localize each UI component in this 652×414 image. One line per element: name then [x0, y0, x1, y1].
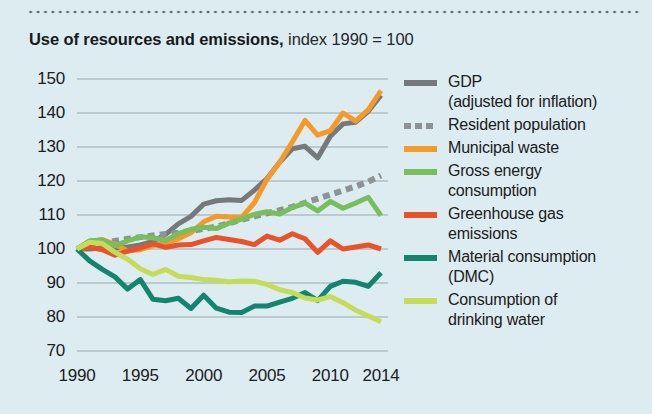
legend-item-resident-population[interactable]: Resident population	[404, 115, 648, 135]
y-tick-label: 90	[19, 273, 65, 293]
x-tick-label: 2014	[356, 366, 406, 386]
y-tick-label: 120	[19, 171, 65, 191]
legend-label-municipal-waste: Municipal waste	[448, 138, 559, 158]
y-tick-label: 80	[19, 307, 65, 327]
legend-swatch-consumption-of-drinking-water-icon	[404, 298, 437, 304]
legend-label-gdp: GDP(adjusted for inflation)	[448, 72, 597, 112]
legend-swatch-resident-population-icon	[404, 123, 437, 129]
y-tick-label: 110	[19, 205, 65, 225]
legend-item-gdp[interactable]: GDP(adjusted for inflation)	[404, 72, 648, 112]
x-tick-label: 1990	[52, 366, 102, 386]
legend-label-gross-energy-consumption: Gross energyconsumption	[448, 161, 542, 201]
x-tick-label: 2005	[242, 366, 292, 386]
legend-swatch-material-consumption-dmc-icon	[404, 255, 437, 261]
legend-swatch-gross-energy-consumption-icon	[404, 169, 437, 175]
figure-panel: Use of resources and emissions, index 19…	[0, 0, 652, 414]
y-tick-label: 130	[19, 137, 65, 157]
series-line-municipal-waste	[77, 91, 381, 251]
y-tick-label: 100	[19, 239, 65, 259]
legend-swatch-greenhouse-gas-emissions-icon	[404, 212, 437, 218]
legend-item-municipal-waste[interactable]: Municipal waste	[404, 138, 648, 158]
legend-label-material-consumption-dmc: Material consumption(DMC)	[448, 247, 596, 287]
legend-label-consumption-of-drinking-water: Consumption ofdrinking water	[448, 290, 557, 330]
x-tick-label: 1995	[115, 366, 165, 386]
x-tick-label: 2010	[305, 366, 355, 386]
legend-swatch-municipal-waste-icon	[404, 146, 437, 152]
series-line-gdp	[77, 95, 381, 249]
legend-item-greenhouse-gas-emissions[interactable]: Greenhouse gasemissions	[404, 204, 648, 244]
series-lines-group	[77, 91, 381, 322]
legend-label-resident-population: Resident population	[448, 115, 586, 135]
legend-item-gross-energy-consumption[interactable]: Gross energyconsumption	[404, 161, 648, 201]
legend-item-consumption-of-drinking-water[interactable]: Consumption ofdrinking water	[404, 290, 648, 330]
x-tick-label: 2000	[179, 366, 229, 386]
y-tick-label: 70	[19, 341, 65, 361]
legend-label-greenhouse-gas-emissions: Greenhouse gasemissions	[448, 204, 564, 244]
legend-swatch-gdp-icon	[404, 80, 437, 86]
legend-item-material-consumption-dmc[interactable]: Material consumption(DMC)	[404, 247, 648, 287]
y-tick-label: 140	[19, 103, 65, 123]
chart-legend: GDP(adjusted for inflation)Resident popu…	[404, 72, 648, 333]
y-tick-label: 150	[19, 69, 65, 89]
